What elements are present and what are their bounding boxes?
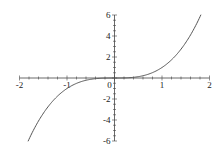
x-tick-label: 1 bbox=[160, 80, 165, 90]
y-tick-label: -4 bbox=[103, 115, 111, 125]
plot-area: -2-1012-6-4-2246 bbox=[0, 0, 223, 152]
y-tick-label: 2 bbox=[106, 52, 111, 62]
y-tick-label: 6 bbox=[106, 10, 111, 20]
y-tick-label: -6 bbox=[103, 136, 111, 146]
x-tick-label: -2 bbox=[16, 80, 24, 90]
x-tick-label: 0 bbox=[107, 80, 112, 90]
x-tick-label: 2 bbox=[207, 80, 212, 90]
y-tick-label: -2 bbox=[103, 94, 111, 104]
y-tick-label: 4 bbox=[106, 31, 111, 41]
